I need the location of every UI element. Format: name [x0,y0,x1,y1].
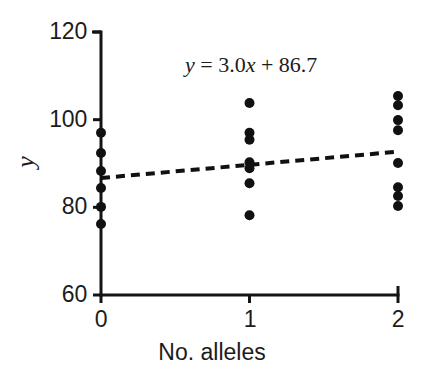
x-axis-title: No. alleles [0,340,424,365]
data-point [393,191,403,201]
data-point [245,135,255,145]
data-point [245,210,255,220]
data-point [393,182,403,192]
x-tick-label-2: 2 [378,308,418,331]
data-point [245,163,255,173]
data-point [96,128,106,138]
data-point [393,115,403,125]
data-point [393,125,403,135]
y-tick-label-100: 100 [27,108,87,131]
data-points-group [96,91,403,229]
data-point [96,183,106,193]
equation-operator-slope: = 3.0 [195,52,246,77]
data-point [245,98,255,108]
regression-equation-annotation: y = 3.0x + 86.7 [185,52,317,78]
data-point [96,148,106,158]
data-point [393,201,403,211]
y-tick-label-120: 120 [27,20,87,43]
data-point [245,178,255,188]
equation-y-symbol: y [185,52,195,77]
data-point [393,100,403,110]
equation-intercept: + 86.7 [255,52,317,77]
y-tick-label-60: 60 [27,283,87,306]
data-point [96,166,106,176]
data-point [393,91,403,101]
data-point [96,202,106,212]
x-tick-label-1: 1 [230,308,270,331]
x-tick-label-0: 0 [81,308,121,331]
equation-x-symbol: x [246,52,256,77]
y-axis-title: y [12,142,40,182]
data-point [393,158,403,168]
y-tick-label-80: 80 [27,195,87,218]
data-point [96,219,106,229]
scatter-plot-figure: 120 100 80 60 0 1 2 No. alleles y y = 3.… [0,0,424,375]
